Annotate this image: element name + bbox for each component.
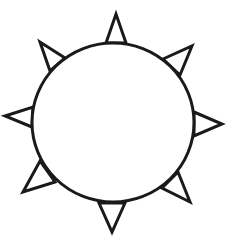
sun-icon [0,0,229,243]
sun-body-circle [32,43,194,202]
ray-bottom-icon [99,203,125,232]
ray-left-icon [5,107,33,127]
ray-top-icon [106,14,126,43]
sun-drawing-canvas: sun [0,0,229,243]
ray-right-icon [194,112,222,136]
